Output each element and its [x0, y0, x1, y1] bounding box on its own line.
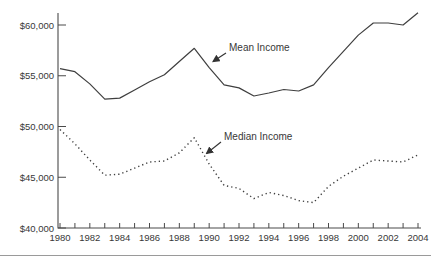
y-tick-label: $55,000 — [20, 70, 54, 81]
mean-income-arrow-icon — [213, 53, 226, 62]
x-tick-label: 1994 — [258, 232, 279, 243]
axes: $60,000$55,000$50,000$45,000$40,00019801… — [20, 13, 429, 243]
median-income-arrow-icon — [207, 142, 222, 154]
income-line-chart: $60,000$55,000$50,000$45,000$40,00019801… — [0, 0, 431, 263]
x-tick-label: 2004 — [407, 232, 428, 243]
x-tick-label: 1988 — [169, 232, 190, 243]
y-tick-label: $50,000 — [20, 121, 54, 132]
median-income-annotation: Median Income — [207, 131, 293, 154]
x-tick-label: 1982 — [79, 232, 100, 243]
x-tick-label: 1986 — [139, 232, 160, 243]
mean-income-line — [60, 13, 418, 99]
income-chart-figure: $60,000$55,000$50,000$45,000$40,00019801… — [0, 0, 431, 263]
median-income-label: Median Income — [224, 131, 293, 142]
x-tick-label: 2002 — [378, 232, 399, 243]
y-tick-label: $60,000 — [20, 20, 54, 31]
x-tick-label: 1996 — [288, 232, 309, 243]
x-tick-label: 1998 — [318, 232, 339, 243]
mean-income-label: Mean Income — [229, 42, 290, 53]
x-tick-label: 1980 — [49, 232, 70, 243]
x-tick-label: 2000 — [348, 232, 369, 243]
mean-income-annotation: Mean Income — [213, 42, 290, 62]
x-tick-label: 1990 — [199, 232, 220, 243]
y-tick-label: $45,000 — [20, 172, 54, 183]
x-tick-label: 1992 — [228, 232, 249, 243]
x-tick-label: 1984 — [109, 232, 130, 243]
